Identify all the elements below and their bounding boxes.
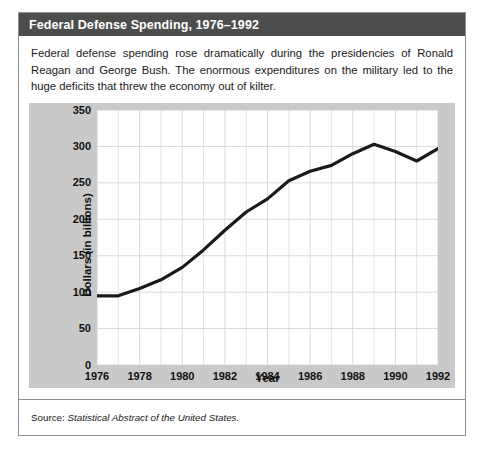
y-tick-label: 350 xyxy=(73,104,91,116)
y-tick-label: 150 xyxy=(73,249,91,261)
figure-container: Federal Defense Spending, 1976–1992 Fede… xyxy=(18,12,466,436)
data-line-series xyxy=(97,110,438,365)
chart-panel: Dollars (in billions) 050100150200250300… xyxy=(29,103,455,388)
y-tick-label: 50 xyxy=(79,322,91,334)
y-tick-label: 250 xyxy=(73,176,91,188)
figure-title-bar: Federal Defense Spending, 1976–1992 xyxy=(19,13,465,36)
source-work-title: Statistical Abstract of the United State… xyxy=(68,412,240,423)
source-prefix: Source: xyxy=(31,412,68,423)
y-tick-label: 100 xyxy=(73,286,91,298)
figure-title: Federal Defense Spending, 1976–1992 xyxy=(29,18,259,32)
plot-area: 050100150200250300350 197619781980198219… xyxy=(97,110,438,365)
y-tick-label: 200 xyxy=(73,213,91,225)
source-bar: Source: Statistical Abstract of the Unit… xyxy=(19,399,465,435)
y-tick-label: 300 xyxy=(73,140,91,152)
figure-description: Federal defense spending rose dramatical… xyxy=(19,36,465,101)
y-axis-label: Dollars (in billions) xyxy=(81,193,93,297)
x-axis-label: Year xyxy=(97,372,438,384)
source-note: Source: Statistical Abstract of the Unit… xyxy=(31,412,239,423)
